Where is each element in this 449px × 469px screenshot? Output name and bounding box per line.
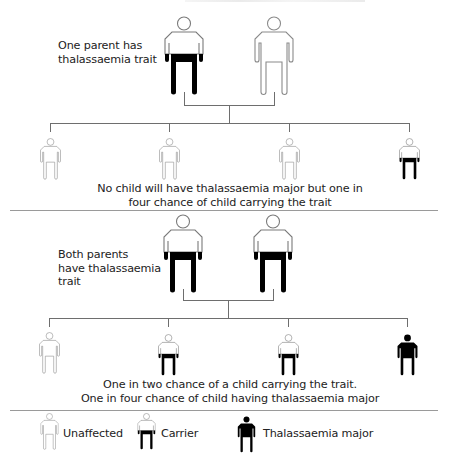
- section-divider: [10, 210, 438, 211]
- connector-line: [228, 300, 229, 318]
- connector-line: [289, 123, 290, 132]
- legend-unaffected-icon: [40, 413, 59, 450]
- sibling-line: [49, 318, 408, 319]
- child-unaffected-icon: [39, 332, 60, 374]
- connector-line: [169, 123, 170, 132]
- cropped-heading-remnant: [185, 0, 365, 2]
- legend-major-icon: [237, 416, 256, 453]
- child-unaffected-icon: [159, 138, 180, 180]
- connector-line: [183, 289, 184, 300]
- section2-caption: One in two chance of a child carrying th…: [40, 378, 420, 405]
- connector-line: [49, 318, 50, 327]
- child-carrier-icon: [399, 138, 420, 180]
- section1-label: One parent has thalassaemia trait: [58, 39, 157, 66]
- legend-major-label: Thalassaemia major: [263, 427, 373, 441]
- connector-line: [184, 92, 185, 105]
- parent-carrier-icon: [163, 214, 203, 294]
- legend-unaffected-label: Unaffected: [63, 427, 123, 441]
- connector-line: [168, 318, 169, 327]
- parent-carrier-icon: [164, 16, 204, 96]
- legend-carrier-label: Carrier: [161, 427, 198, 441]
- child-carrier-icon: [278, 334, 299, 376]
- connector-line: [407, 318, 408, 327]
- connector-line: [274, 92, 275, 105]
- parent-unaffected-icon: [254, 16, 294, 96]
- sibling-line: [50, 123, 410, 124]
- legend-carrier-icon: [137, 413, 156, 450]
- section1-caption: No child will have thalassaemia major bu…: [40, 182, 420, 209]
- section2-label: Both parents have thalassaemia trait: [58, 248, 161, 289]
- child-unaffected-icon: [40, 138, 61, 180]
- connector-line: [409, 123, 410, 132]
- child-unaffected-icon: [279, 138, 300, 180]
- parent-carrier-icon: [253, 214, 293, 294]
- connector-line: [288, 318, 289, 327]
- connector-line: [50, 123, 51, 132]
- connector-line: [273, 289, 274, 300]
- connector-line: [229, 105, 230, 123]
- child-carrier-icon: [158, 334, 179, 376]
- child-major-icon: [397, 334, 418, 376]
- legend-divider: [10, 410, 438, 411]
